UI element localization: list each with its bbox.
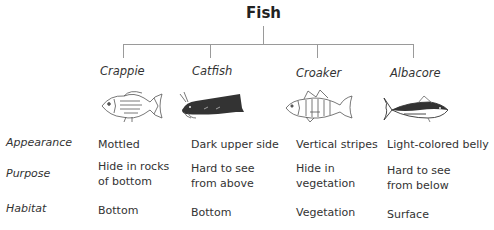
- appearance-catfish: Dark upper side: [191, 137, 279, 152]
- purpose-albacore-line1: Hard to see: [387, 163, 451, 178]
- appearance-croaker: Vertical stripes: [296, 137, 378, 152]
- purpose-catfish-line2: from above: [191, 176, 255, 191]
- row-label-habitat: Habitat: [6, 202, 46, 215]
- croaker-fish-icon: [284, 88, 356, 124]
- crappie-fish-icon: [100, 88, 164, 124]
- tree-drop-catfish: [210, 44, 211, 58]
- species-albacore: Albacore: [390, 66, 441, 80]
- tree-branch-horizontal: [123, 44, 414, 45]
- species-crappie: Crappie: [100, 64, 145, 78]
- species-catfish: Catfish: [192, 64, 232, 78]
- habitat-crappie: Bottom: [98, 203, 138, 218]
- species-croaker: Croaker: [296, 66, 341, 80]
- habitat-catfish: Bottom: [191, 205, 231, 220]
- purpose-crappie: Hide in rocks of bottom: [98, 159, 169, 189]
- tree-drop-crappie: [123, 44, 124, 58]
- row-label-appearance: Appearance: [6, 136, 72, 149]
- appearance-albacore: Light-colored belly: [387, 137, 489, 152]
- tree-stem: [263, 26, 264, 45]
- albacore-fish-icon: [374, 94, 450, 124]
- purpose-albacore: Hard to see from below: [387, 163, 451, 193]
- appearance-crappie: Mottled: [98, 137, 140, 152]
- diagram-title: Fish: [0, 4, 494, 22]
- tree-drop-albacore: [413, 44, 414, 58]
- purpose-catfish-line1: Hard to see: [191, 161, 255, 176]
- catfish-icon: [178, 90, 248, 120]
- purpose-croaker-line1: Hide in: [296, 161, 355, 176]
- purpose-crappie-line2: of bottom: [98, 174, 169, 189]
- purpose-croaker: Hide in vegetation: [296, 161, 355, 191]
- habitat-croaker: Vegetation: [296, 205, 355, 220]
- habitat-albacore: Surface: [387, 207, 429, 222]
- purpose-catfish: Hard to see from above: [191, 161, 255, 191]
- tree-drop-croaker: [317, 44, 318, 58]
- purpose-croaker-line2: vegetation: [296, 176, 355, 191]
- row-label-purpose: Purpose: [6, 167, 50, 180]
- purpose-albacore-line2: from below: [387, 178, 451, 193]
- purpose-crappie-line1: Hide in rocks: [98, 159, 169, 174]
